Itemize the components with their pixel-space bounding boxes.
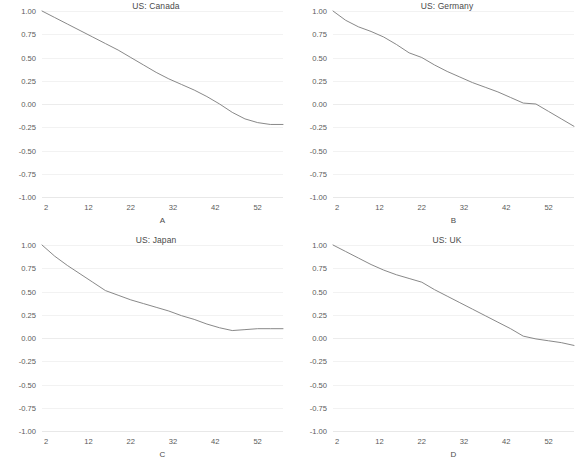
series-line bbox=[333, 245, 574, 345]
y-axis-tick-label: -1.00 bbox=[310, 427, 327, 436]
x-axis-tick-label: 22 bbox=[127, 437, 135, 446]
x-axis-tick-label: 52 bbox=[253, 437, 261, 446]
x-axis-tick-label: 52 bbox=[544, 203, 552, 212]
series-line bbox=[333, 11, 574, 126]
x-axis-tick-label: 42 bbox=[211, 437, 219, 446]
y-axis-tick-label: 0.25 bbox=[312, 77, 327, 86]
y-axis-tick-label: -1.00 bbox=[310, 193, 327, 202]
y-axis-tick-label: 0.00 bbox=[21, 100, 36, 109]
y-axis-tick-label: -0.50 bbox=[310, 147, 327, 156]
panel-us-japan: US: Japan 1.000.750.500.250.00-0.25-0.50… bbox=[0, 234, 290, 468]
x-axis-tick-label: 52 bbox=[253, 203, 261, 212]
panel-us-canada: US: Canada 1.000.750.500.250.00-0.25-0.5… bbox=[0, 0, 290, 234]
y-axis-tick-label: 0.50 bbox=[21, 288, 36, 297]
x-axis-tick-label: 52 bbox=[544, 437, 552, 446]
y-axis-tick-label: 0.25 bbox=[21, 77, 36, 86]
y-axis-tick-label: -0.25 bbox=[19, 123, 36, 132]
y-axis-tick-label: -0.25 bbox=[310, 123, 327, 132]
x-axis-tick-label: 2 bbox=[44, 437, 48, 446]
series-line bbox=[42, 11, 283, 124]
y-axis-tick-label: 1.00 bbox=[312, 7, 327, 16]
x-axis-name: D bbox=[451, 450, 457, 459]
x-axis-tick-label: 42 bbox=[502, 203, 510, 212]
panel-us-germany: US: Germany 1.000.750.500.250.00-0.25-0.… bbox=[291, 0, 581, 234]
y-axis-tick-label: -0.25 bbox=[310, 357, 327, 366]
x-axis-tick-label: 22 bbox=[418, 203, 426, 212]
y-axis-tick-label: 1.00 bbox=[312, 241, 327, 250]
plot-area-d: 1.000.750.500.250.00-0.25-0.50-0.75-1.00… bbox=[291, 234, 581, 468]
x-axis-tick-label: 42 bbox=[211, 203, 219, 212]
y-axis-tick-label: -0.50 bbox=[19, 147, 36, 156]
plot-area-a: 1.000.750.500.250.00-0.25-0.50-0.75-1.00… bbox=[0, 0, 290, 234]
x-axis-tick-label: 12 bbox=[84, 437, 92, 446]
x-axis-tick-label: 32 bbox=[460, 203, 468, 212]
x-axis-tick-label: 2 bbox=[335, 203, 339, 212]
y-axis-tick-label: -0.75 bbox=[310, 404, 327, 413]
series-line bbox=[42, 245, 283, 331]
y-axis-tick-label: 0.75 bbox=[21, 30, 36, 39]
x-axis-tick-label: 32 bbox=[460, 437, 468, 446]
x-axis-tick-label: 22 bbox=[127, 203, 135, 212]
y-axis-tick-label: 0.00 bbox=[21, 334, 36, 343]
y-axis-tick-label: -0.75 bbox=[310, 170, 327, 179]
x-axis-tick-label: 42 bbox=[502, 437, 510, 446]
y-axis-tick-label: -0.75 bbox=[19, 170, 36, 179]
x-axis-tick-label: 22 bbox=[418, 437, 426, 446]
x-axis-tick-label: 12 bbox=[84, 203, 92, 212]
y-axis-tick-label: -0.50 bbox=[19, 381, 36, 390]
y-axis-tick-label: 0.25 bbox=[312, 311, 327, 320]
y-axis-tick-label: -0.50 bbox=[310, 381, 327, 390]
plot-area-c: 1.000.750.500.250.00-0.25-0.50-0.75-1.00… bbox=[0, 234, 290, 468]
x-axis-name: A bbox=[160, 216, 166, 225]
x-axis-tick-label: 12 bbox=[375, 437, 383, 446]
y-axis-tick-label: 0.75 bbox=[312, 264, 327, 273]
x-axis-tick-label: 32 bbox=[169, 437, 177, 446]
y-axis-tick-label: 0.50 bbox=[21, 54, 36, 63]
plot-area-b: 1.000.750.500.250.00-0.25-0.50-0.75-1.00… bbox=[291, 0, 581, 234]
y-axis-tick-label: 0.00 bbox=[312, 334, 327, 343]
x-axis-tick-label: 12 bbox=[375, 203, 383, 212]
x-axis-tick-label: 2 bbox=[335, 437, 339, 446]
y-axis-tick-label: -1.00 bbox=[19, 193, 36, 202]
y-axis-tick-label: 1.00 bbox=[21, 7, 36, 16]
y-axis-tick-label: 0.25 bbox=[21, 311, 36, 320]
y-axis-tick-label: 1.00 bbox=[21, 241, 36, 250]
y-axis-tick-label: 0.75 bbox=[21, 264, 36, 273]
x-axis-name: B bbox=[451, 216, 456, 225]
y-axis-tick-label: -0.25 bbox=[19, 357, 36, 366]
x-axis-name: C bbox=[160, 450, 166, 459]
x-axis-tick-label: 2 bbox=[44, 203, 48, 212]
y-axis-tick-label: -0.75 bbox=[19, 404, 36, 413]
y-axis-tick-label: -1.00 bbox=[19, 427, 36, 436]
y-axis-tick-label: 0.75 bbox=[312, 30, 327, 39]
panel-us-uk: US: UK 1.000.750.500.250.00-0.25-0.50-0.… bbox=[291, 234, 581, 468]
y-axis-tick-label: 0.00 bbox=[312, 100, 327, 109]
y-axis-tick-label: 0.50 bbox=[312, 54, 327, 63]
figure-panel-grid: US: Canada 1.000.750.500.250.00-0.25-0.5… bbox=[0, 0, 581, 468]
y-axis-tick-label: 0.50 bbox=[312, 288, 327, 297]
x-axis-tick-label: 32 bbox=[169, 203, 177, 212]
